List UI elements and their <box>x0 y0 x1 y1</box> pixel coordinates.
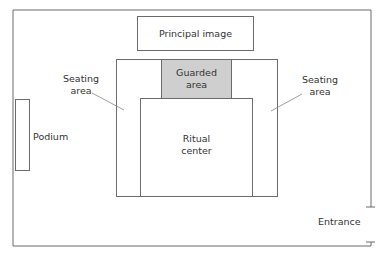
ritual-center-label: Ritual center <box>140 133 253 157</box>
seating-area-right-label: Seating area <box>295 74 345 98</box>
seating-right-text-2: area <box>295 86 345 98</box>
principal-image-label: Principal image <box>137 28 254 40</box>
seating-area-left-label: Seating area <box>56 73 106 97</box>
entrance-label: Entrance <box>318 216 361 228</box>
guarded-area-text-1: Guarded <box>161 67 232 79</box>
seating-right-text-1: Seating <box>295 74 345 86</box>
podium-box <box>16 100 30 171</box>
entrance-text: Entrance <box>318 216 361 227</box>
guarded-area-text-2: area <box>161 79 232 91</box>
podium-label: Podium <box>33 131 68 143</box>
seating-left-text-1: Seating <box>56 73 106 85</box>
ritual-center-text-2: center <box>140 145 253 157</box>
podium-text: Podium <box>33 131 68 142</box>
ritual-center-text-1: Ritual <box>140 133 253 145</box>
seating-left-text-2: area <box>56 85 106 97</box>
principal-image-text: Principal image <box>159 28 232 39</box>
guarded-area-label: Guarded area <box>161 67 232 91</box>
